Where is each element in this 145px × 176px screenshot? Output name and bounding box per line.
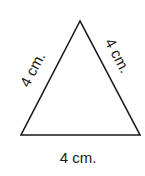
bottom-side-label: 4 cm.	[60, 149, 97, 166]
triangle-diagram: 4 cm. 4 cm. 4 cm.	[0, 0, 145, 176]
left-side-label: 4 cm.	[16, 49, 48, 89]
equilateral-triangle	[21, 21, 140, 135]
right-side-label: 4 cm.	[102, 35, 134, 75]
